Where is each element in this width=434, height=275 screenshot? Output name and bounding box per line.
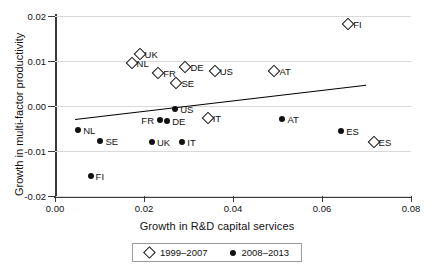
hollow-diamond-icon: [143, 246, 156, 259]
point-label-NL: NL: [137, 57, 149, 68]
x-tick-label: 0.04: [224, 203, 243, 214]
legend-label-1999-2007: 1999–2007: [160, 247, 208, 258]
x-tick-label: 0.08: [402, 203, 421, 214]
y-tick: [48, 151, 55, 152]
y-tick-label: 0.02: [0, 11, 46, 22]
point-label-NL: NL: [83, 124, 95, 135]
legend-label-2008-2013: 2008–2013: [242, 247, 290, 258]
point-label-US: US: [220, 65, 233, 76]
y-tick: [48, 106, 55, 107]
point-label-IT: IT: [213, 113, 221, 124]
point-label-ES: ES: [379, 136, 392, 147]
point-label-AT: AT: [287, 114, 298, 125]
filled-circle-icon: [230, 250, 236, 256]
chart-legend: 1999–2007 2008–2013: [132, 243, 302, 262]
point-label-FI: FI: [96, 171, 104, 182]
point-label-DE: DE: [172, 115, 185, 126]
data-point-2008-2013-NL: [75, 127, 81, 133]
y-tick-label: 0.00: [0, 101, 46, 112]
plot-area: UKNLFRDESEUSATFIITESNLSEFIUKITFRDEUSATES: [55, 16, 411, 196]
x-tick-label: 0.02: [135, 203, 154, 214]
data-point-2008-2013-FI: [88, 173, 94, 179]
point-label-IT: IT: [187, 137, 195, 148]
data-point-2008-2013-IT: [179, 139, 185, 145]
point-label-FI: FI: [353, 18, 361, 29]
point-label-ES: ES: [346, 125, 359, 136]
y-tick: [48, 61, 55, 62]
legend-item-1999-2007: 1999–2007: [145, 247, 208, 258]
x-axis-title: Growth in R&D capital services: [0, 220, 434, 232]
point-label-SE: SE: [181, 77, 194, 88]
scatter-chart: Growth in multi-factor productivity 0.02…: [0, 0, 434, 275]
point-label-UK: UK: [157, 137, 170, 148]
data-point-2008-2013-FR: [157, 117, 163, 123]
data-point-2008-2013-AT: [279, 116, 285, 122]
x-tick: [55, 196, 56, 202]
point-label-AT: AT: [279, 65, 290, 76]
point-label-FR: FR: [163, 67, 176, 78]
legend-item-2008-2013: 2008–2013: [230, 247, 290, 258]
x-tick-label: 0.06: [313, 203, 332, 214]
x-tick: [322, 196, 323, 202]
y-tick-label: -0.01: [0, 146, 46, 157]
y-tick-label: -0.02: [0, 191, 46, 202]
x-tick: [144, 196, 145, 202]
point-label-DE: DE: [190, 61, 203, 72]
x-tick: [233, 196, 234, 202]
data-point-2008-2013-SE: [97, 138, 103, 144]
y-tick: [48, 196, 55, 197]
point-label-FR: FR: [141, 115, 154, 126]
data-point-2008-2013-UK: [149, 139, 155, 145]
y-tick-label: 0.01: [0, 56, 46, 67]
x-tick: [411, 196, 412, 202]
data-point-2008-2013-DE: [164, 118, 170, 124]
data-point-2008-2013-ES: [338, 128, 344, 134]
point-label-SE: SE: [105, 135, 118, 146]
y-tick: [48, 16, 55, 17]
x-tick-label: 0.00: [46, 203, 65, 214]
